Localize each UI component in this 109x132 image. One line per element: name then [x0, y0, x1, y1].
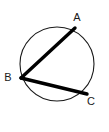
geometry-figure: A B C: [0, 0, 109, 132]
vertex-label-c: C: [87, 95, 95, 107]
vertex-label-b: B: [4, 71, 11, 83]
geometry-canvas: A B C: [0, 0, 109, 132]
figure-background: [0, 0, 109, 132]
vertex-label-a: A: [73, 11, 81, 23]
